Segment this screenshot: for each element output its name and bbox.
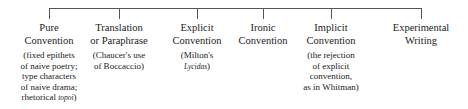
node-title: Convention bbox=[173, 35, 222, 46]
node-title: or Paraphrase bbox=[90, 35, 147, 46]
node-note: ) bbox=[207, 61, 210, 71]
node-note: of explicit bbox=[313, 61, 350, 71]
node-experimental-writing: ExperimentalWriting bbox=[393, 21, 450, 47]
node-note: of naive poetry; bbox=[21, 61, 78, 71]
node-note-italic: Lycidas bbox=[184, 62, 207, 71]
node-title: Experimental bbox=[393, 22, 450, 33]
connector-horizontal bbox=[49, 8, 422, 9]
connector-implicit bbox=[331, 8, 332, 19]
connector-ironic bbox=[263, 8, 264, 19]
node-title: Translation bbox=[95, 22, 142, 33]
node-title: Convention bbox=[306, 35, 355, 46]
node-title: Writing bbox=[405, 35, 437, 46]
node-translation: Translationor Paraphrase (Chaucer's use … bbox=[90, 21, 147, 71]
node-title: Explicit bbox=[180, 22, 213, 33]
node-note: ) bbox=[74, 92, 77, 102]
node-pure-convention: PureConvention (fixed epithets of naive … bbox=[21, 21, 78, 104]
node-note: of naive drama; bbox=[21, 82, 77, 92]
node-ironic-convention: IronicConvention bbox=[239, 21, 288, 47]
node-note: as in Whitman) bbox=[303, 82, 358, 92]
connector-experimental bbox=[421, 8, 422, 19]
node-note-italic: topoi bbox=[58, 93, 73, 102]
node-title: Convention bbox=[239, 35, 288, 46]
connector-translation bbox=[119, 8, 120, 19]
node-note: (Chaucer's use bbox=[93, 50, 145, 60]
node-note: rhetorical bbox=[21, 92, 58, 102]
node-note: of Boccaccio) bbox=[94, 61, 144, 71]
connector-explicit bbox=[197, 8, 198, 19]
node-title: Implicit bbox=[314, 22, 347, 33]
node-implicit-convention: ImplicitConvention (the rejection of exp… bbox=[303, 21, 358, 92]
node-note: (fixed epithets bbox=[23, 50, 75, 60]
node-note: (the rejection bbox=[307, 50, 355, 60]
node-title: Ironic bbox=[250, 22, 275, 33]
node-note: convention, bbox=[310, 71, 352, 81]
node-note: (Milton's bbox=[181, 50, 214, 60]
connector-pure bbox=[49, 8, 50, 19]
node-note: type characters bbox=[22, 71, 76, 81]
node-title: Pure bbox=[39, 22, 58, 33]
node-explicit-convention: ExplicitConvention (Milton's Lycidas) bbox=[173, 21, 222, 72]
node-title: Convention bbox=[24, 35, 73, 46]
